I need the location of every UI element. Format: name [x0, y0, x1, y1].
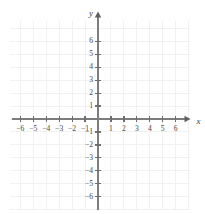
x-tick-label: −5	[29, 125, 37, 133]
x-tick-label: 2	[122, 125, 126, 133]
y-tick-label: −6	[85, 193, 93, 201]
y-tick-label: 4	[89, 63, 93, 71]
x-tick-label: 1	[109, 125, 113, 133]
coordinate-plane: −6−5−4−3−2−1123456−6−5−4−3−2−1123456 x y	[0, 0, 205, 214]
x-axis-label: x	[197, 117, 201, 126]
y-tick-label: 2	[89, 89, 93, 97]
y-tick-label: 1	[89, 102, 93, 110]
x-tick-label: −6	[16, 125, 24, 133]
y-tick-label: −5	[85, 180, 93, 188]
y-axis-label: y	[89, 9, 93, 18]
y-tick-label: 5	[89, 50, 93, 58]
x-tick-label: −4	[42, 125, 50, 133]
y-tick-label: −3	[85, 154, 93, 162]
x-tick-label: −3	[55, 125, 63, 133]
x-tick-label: 6	[174, 125, 178, 133]
y-tick-label: 3	[89, 76, 93, 84]
x-tick-label: 5	[161, 125, 165, 133]
coordinate-plane-canvas	[0, 0, 205, 214]
x-tick-label: −2	[68, 125, 76, 133]
x-tick-label: 4	[148, 125, 152, 133]
y-tick-label: −2	[85, 141, 93, 149]
x-tick-label: 3	[135, 125, 139, 133]
grid-lines	[10, 21, 190, 210]
y-tick-label: −1	[85, 128, 93, 136]
y-tick-label: 6	[89, 38, 93, 46]
y-tick-label: −4	[85, 167, 93, 175]
